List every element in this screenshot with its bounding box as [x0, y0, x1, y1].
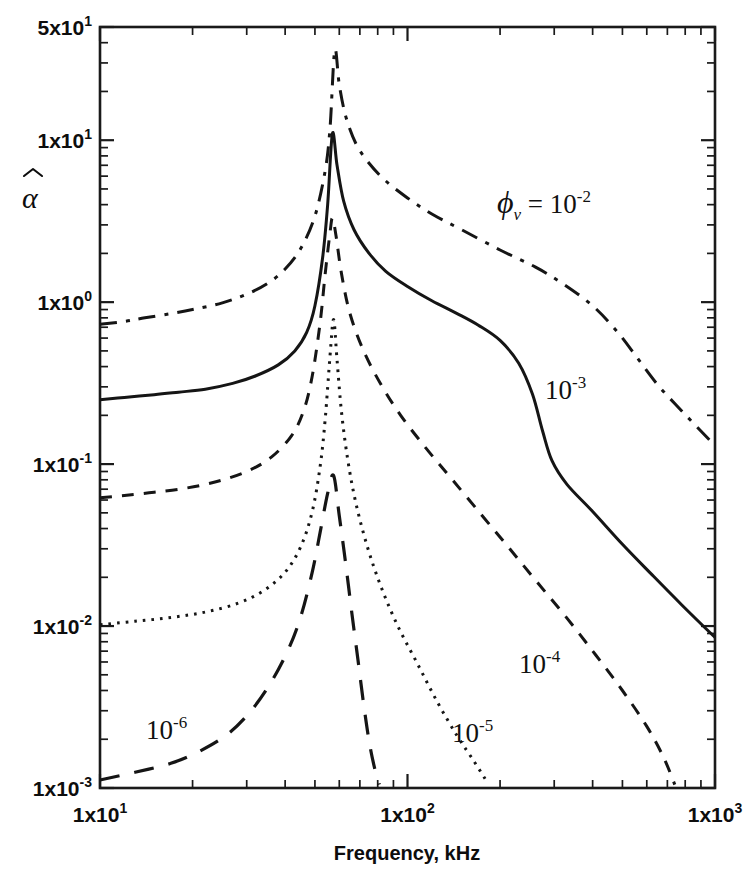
- y-tick-label: 5x101: [37, 13, 92, 39]
- y-axis-title-glyph: α: [22, 181, 39, 214]
- y-tick-label: 1x100: [37, 288, 92, 314]
- figure-container: 1x1011x1021x103 5x1011x1011x1001x10-11x1…: [0, 0, 749, 871]
- canvas-background: [0, 0, 749, 871]
- x-axis-title: Frequency, kHz: [334, 842, 480, 864]
- x-tick-label: 1x103: [688, 800, 743, 826]
- y-tick-label: 1x101: [37, 126, 92, 152]
- chart-svg: 1x1011x1021x103 5x1011x1011x1001x10-11x1…: [0, 0, 749, 871]
- x-tick-label: 1x102: [380, 800, 435, 826]
- x-tick-label: 1x101: [73, 800, 128, 826]
